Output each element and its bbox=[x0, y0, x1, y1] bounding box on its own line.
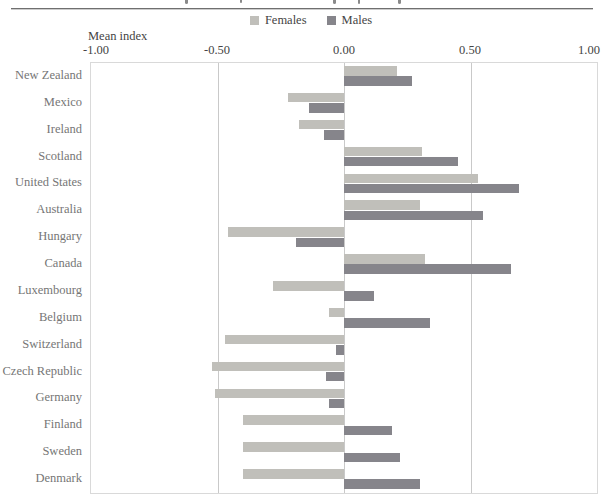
x-tick-1: 1.00 bbox=[578, 43, 600, 58]
cropped-title-fragment bbox=[358, 0, 360, 4]
category-label-denmark: Denmark bbox=[0, 465, 82, 492]
bar-females-ireland bbox=[299, 120, 345, 130]
category-label-australia: Australia bbox=[0, 196, 82, 223]
gridline--0.5 bbox=[218, 63, 219, 493]
cropped-title-fragment bbox=[398, 0, 401, 4]
chart-legend: Females Males bbox=[0, 14, 608, 27]
category-label-switzerland: Switzerland bbox=[0, 331, 82, 358]
bar-males-switzerland bbox=[336, 345, 344, 355]
category-label-mexico: Mexico bbox=[0, 89, 82, 116]
x-axis-tick-labels: -1.00 -0.50 0.00 0.50 1.00 bbox=[90, 43, 597, 58]
category-label-ireland: Ireland bbox=[0, 116, 82, 143]
cropped-title-fragment bbox=[333, 0, 336, 4]
bar-males-canada bbox=[344, 264, 511, 274]
cropped-title-fragment bbox=[185, 0, 188, 4]
bar-females-new-zealand bbox=[344, 66, 397, 76]
bar-females-sweden bbox=[243, 442, 344, 452]
bar-females-australia bbox=[344, 200, 420, 210]
males-swatch-icon bbox=[327, 16, 336, 25]
bar-females-finland bbox=[243, 415, 344, 425]
bar-males-australia bbox=[344, 211, 483, 221]
bar-males-czech-republic bbox=[326, 372, 344, 382]
axis-title: Mean index bbox=[88, 29, 147, 44]
x-tick-neg-1: -1.00 bbox=[83, 43, 109, 58]
gridline-0.5 bbox=[471, 63, 472, 493]
bar-females-scotland bbox=[344, 147, 422, 157]
legend-item-females: Females bbox=[250, 14, 307, 27]
category-label-canada: Canada bbox=[0, 250, 82, 277]
category-label-sweden: Sweden bbox=[0, 438, 82, 465]
bar-males-sweden bbox=[344, 453, 400, 463]
category-label-belgium: Belgium bbox=[0, 304, 82, 331]
bar-males-scotland bbox=[344, 157, 458, 167]
bar-females-canada bbox=[344, 254, 425, 264]
category-label-luxembourg: Luxembourg bbox=[0, 277, 82, 304]
chart-figure: Females Males Mean index -1.00 -0.50 0.0… bbox=[0, 0, 608, 497]
bar-males-finland bbox=[344, 426, 392, 436]
x-tick-neg-05: -0.50 bbox=[204, 43, 230, 58]
x-tick-05: 0.50 bbox=[459, 43, 481, 58]
x-tick-0: 0.00 bbox=[333, 43, 355, 58]
category-label-scotland: Scotland bbox=[0, 143, 82, 170]
category-labels: New ZealandMexicoIrelandScotlandUnited S… bbox=[0, 62, 85, 492]
bar-females-mexico bbox=[288, 93, 344, 103]
bar-females-czech-republic bbox=[212, 362, 344, 372]
bar-females-hungary bbox=[228, 227, 344, 237]
category-label-hungary: Hungary bbox=[0, 223, 82, 250]
bar-females-luxembourg bbox=[273, 281, 344, 291]
bar-females-switzerland bbox=[225, 335, 344, 345]
bar-males-united-states bbox=[344, 184, 519, 194]
bar-females-germany bbox=[215, 389, 344, 399]
bar-males-germany bbox=[329, 399, 344, 409]
category-label-germany: Germany bbox=[0, 385, 82, 412]
cropped-title-fragment bbox=[240, 0, 242, 3]
bar-males-luxembourg bbox=[344, 291, 374, 301]
category-label-finland: Finland bbox=[0, 411, 82, 438]
legend-item-males: Males bbox=[327, 14, 373, 27]
category-label-czech-republic: Czech Republic bbox=[0, 358, 82, 385]
category-label-united-states: United States bbox=[0, 170, 82, 197]
category-label-new-zealand: New Zealand bbox=[0, 62, 82, 89]
bar-females-belgium bbox=[329, 308, 344, 318]
legend-label-males: Males bbox=[342, 14, 373, 27]
bar-males-mexico bbox=[309, 103, 344, 113]
bar-females-united-states bbox=[344, 174, 478, 184]
plot-area bbox=[90, 62, 598, 494]
bar-males-ireland bbox=[324, 130, 344, 140]
bar-females-denmark bbox=[243, 469, 344, 479]
bar-males-new-zealand bbox=[344, 76, 412, 86]
legend-label-females: Females bbox=[265, 14, 307, 27]
females-swatch-icon bbox=[250, 16, 259, 25]
bar-males-belgium bbox=[344, 318, 430, 328]
top-divider-line bbox=[11, 8, 593, 9]
bar-males-hungary bbox=[296, 238, 344, 248]
bar-males-denmark bbox=[344, 479, 420, 489]
